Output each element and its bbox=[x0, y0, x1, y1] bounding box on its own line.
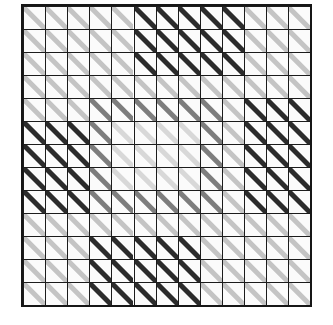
grid-cell bbox=[89, 6, 111, 29]
diagonal-segment bbox=[222, 121, 244, 144]
grid-cell bbox=[45, 236, 67, 259]
diagonal-segment bbox=[111, 121, 133, 144]
diagonal-segment bbox=[244, 75, 266, 98]
diagonal-segment bbox=[200, 167, 222, 190]
grid-cell bbox=[288, 98, 310, 121]
diagonal-segment bbox=[178, 282, 200, 305]
grid-line-vertical bbox=[244, 6, 245, 305]
grid-cell bbox=[111, 213, 133, 236]
diagonal-segment bbox=[89, 75, 111, 98]
grid-cell bbox=[288, 167, 310, 190]
diagonal-segment bbox=[45, 121, 67, 144]
diagonal-segment bbox=[89, 144, 111, 167]
grid-cell bbox=[178, 213, 200, 236]
grid-cell bbox=[244, 259, 266, 282]
grid-cell bbox=[222, 236, 244, 259]
grid-cell bbox=[266, 282, 288, 305]
diagonal-segment bbox=[134, 144, 156, 167]
grid-cell bbox=[134, 213, 156, 236]
diagonal-segment bbox=[222, 213, 244, 236]
diagonal-segment bbox=[222, 98, 244, 121]
grid-cell bbox=[89, 259, 111, 282]
grid-cell bbox=[178, 52, 200, 75]
diagonal-segment bbox=[89, 282, 111, 305]
diagonal-segment bbox=[45, 213, 67, 236]
diagonal-segment bbox=[178, 236, 200, 259]
grid-cell bbox=[67, 190, 89, 213]
diagonal-segment bbox=[266, 213, 288, 236]
grid-cell bbox=[67, 29, 89, 52]
grid-line-vertical bbox=[67, 6, 68, 305]
grid-cell bbox=[156, 52, 178, 75]
diagonal-segment bbox=[244, 236, 266, 259]
grid-cell bbox=[288, 52, 310, 75]
diagonal-segment bbox=[222, 236, 244, 259]
diagonal-segment bbox=[200, 190, 222, 213]
diagonal-segment bbox=[156, 75, 178, 98]
grid-cell bbox=[45, 6, 67, 29]
grid-cell bbox=[156, 29, 178, 52]
diagonal-segment bbox=[266, 144, 288, 167]
grid-line-vertical bbox=[45, 6, 46, 305]
grid-cell bbox=[266, 75, 288, 98]
diagonal-segment bbox=[178, 29, 200, 52]
grid-cell bbox=[134, 282, 156, 305]
diagonal-segment bbox=[266, 6, 288, 29]
grid-cell bbox=[288, 282, 310, 305]
diagonal-segment bbox=[288, 29, 310, 52]
diagonal-segment bbox=[244, 121, 266, 144]
grid-cell bbox=[178, 259, 200, 282]
diagonal-segment bbox=[200, 282, 222, 305]
grid-cell bbox=[111, 6, 133, 29]
diagonal-segment bbox=[288, 121, 310, 144]
diagonal-segment bbox=[67, 29, 89, 52]
grid-cell bbox=[288, 6, 310, 29]
grid-cell bbox=[156, 6, 178, 29]
grid-cell bbox=[134, 236, 156, 259]
diagonal-segment bbox=[67, 190, 89, 213]
grid-cell bbox=[45, 52, 67, 75]
diagonal-segment bbox=[178, 213, 200, 236]
grid-cell bbox=[266, 144, 288, 167]
grid-cell bbox=[156, 282, 178, 305]
diagonal-segment bbox=[134, 167, 156, 190]
grid-cell bbox=[134, 121, 156, 144]
diagonal-segment bbox=[67, 75, 89, 98]
diagonal-segment bbox=[288, 236, 310, 259]
grid-cell bbox=[288, 75, 310, 98]
grid-cell bbox=[111, 144, 133, 167]
grid-cell bbox=[200, 236, 222, 259]
grid-line-vertical bbox=[156, 6, 157, 305]
grid-cell bbox=[23, 121, 45, 144]
diagonal-segment bbox=[288, 190, 310, 213]
diagonal-segment bbox=[244, 6, 266, 29]
diagonal-segment bbox=[23, 236, 45, 259]
diagonal-segment bbox=[178, 98, 200, 121]
grid-cell bbox=[67, 236, 89, 259]
diagonal-segment bbox=[156, 190, 178, 213]
diagonal-segment bbox=[23, 259, 45, 282]
diagonal-segment bbox=[200, 98, 222, 121]
diagonal-segment bbox=[266, 121, 288, 144]
grid-cell bbox=[266, 167, 288, 190]
grid-cell bbox=[178, 144, 200, 167]
diagonal-segment bbox=[266, 167, 288, 190]
grid-cell bbox=[200, 6, 222, 29]
grid-cell bbox=[23, 75, 45, 98]
grid-cell bbox=[67, 259, 89, 282]
diagonal-segment bbox=[156, 144, 178, 167]
diagonal-segment bbox=[156, 167, 178, 190]
diagonal-segment bbox=[45, 29, 67, 52]
grid-cell bbox=[111, 282, 133, 305]
diagonal-segment bbox=[288, 167, 310, 190]
diagonal-segment bbox=[111, 167, 133, 190]
diagonal-segment bbox=[156, 121, 178, 144]
diagonal-segment bbox=[23, 167, 45, 190]
grid-cell bbox=[111, 190, 133, 213]
grid-cell bbox=[67, 144, 89, 167]
diagonal-segment bbox=[222, 282, 244, 305]
diagonal-segment bbox=[45, 75, 67, 98]
grid-cell bbox=[45, 167, 67, 190]
diagonal-segment bbox=[111, 213, 133, 236]
grid-cell bbox=[288, 236, 310, 259]
